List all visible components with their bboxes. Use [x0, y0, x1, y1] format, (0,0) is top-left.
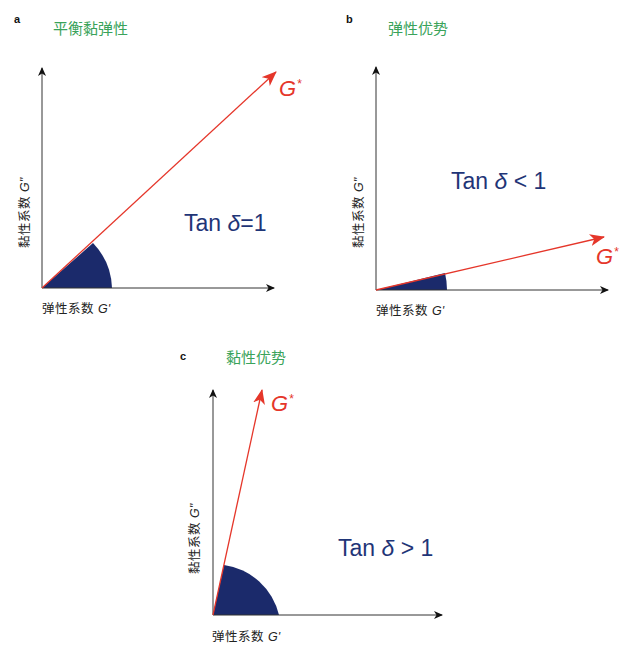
- tan-relation: > 1: [394, 535, 433, 561]
- delta-symbol: δ: [494, 168, 507, 194]
- x-axis-label-c: 弹性系数 G': [212, 626, 280, 645]
- complex-modulus-vector-b: [376, 237, 604, 290]
- vector-label-a: G*: [279, 76, 302, 102]
- tan-word: Tan: [338, 535, 375, 561]
- complex-modulus-vector-a: [42, 72, 276, 288]
- x-axis-symbol: G': [432, 304, 444, 318]
- delta-symbol: δ: [227, 210, 240, 236]
- vector-symbol: G: [279, 76, 296, 101]
- y-axis-label-b: 黏性系数 G'': [348, 178, 367, 248]
- panel-c-plot: [213, 390, 442, 615]
- y-axis-symbol: G'': [188, 504, 202, 519]
- vector-superscript: *: [297, 77, 302, 91]
- panel-b-title: 弹性优势: [388, 17, 448, 38]
- y-axis-symbol: G'': [18, 178, 32, 193]
- tan-delta-c: Tan δ > 1: [338, 535, 433, 562]
- tan-delta-b: Tan δ < 1: [451, 168, 546, 195]
- y-axis-symbol: G'': [352, 178, 366, 193]
- tan-delta-a: Tan δ=1: [184, 210, 267, 237]
- x-axis-text: 弹性系数: [212, 629, 264, 644]
- x-axis-symbol: G': [98, 302, 110, 316]
- vector-symbol: G: [271, 391, 288, 416]
- x-axis-label-b: 弹性系数 G': [376, 300, 444, 319]
- panel-c-letter: c: [180, 350, 186, 362]
- y-axis-text: 黏性系数: [17, 196, 32, 248]
- x-axis-label-a: 弹性系数 G': [42, 298, 110, 317]
- panel-a-plot: [42, 68, 276, 288]
- vector-superscript: *: [289, 392, 294, 406]
- x-axis-symbol: G': [268, 630, 280, 644]
- panel-a-letter: a: [14, 13, 20, 25]
- delta-symbol: δ: [381, 535, 394, 561]
- y-axis-text: 黏性系数: [351, 196, 366, 248]
- vector-superscript: *: [614, 245, 619, 259]
- tan-relation: =1: [240, 210, 266, 236]
- y-axis-label-c: 黏性系数 G'': [184, 504, 203, 574]
- x-axis-text: 弹性系数: [376, 303, 428, 318]
- tan-word: Tan: [184, 210, 221, 236]
- vector-symbol: G: [596, 244, 613, 269]
- diagram-canvas: [0, 0, 638, 656]
- x-axis-text: 弹性系数: [42, 301, 94, 316]
- panel-a-title: 平衡黏弹性: [53, 17, 128, 38]
- panel-b-letter: b: [346, 13, 353, 25]
- vector-label-b: G*: [596, 244, 619, 270]
- y-axis-label-a: 黏性系数 G'': [14, 178, 33, 248]
- tan-relation: < 1: [507, 168, 546, 194]
- vector-label-c: G*: [271, 391, 294, 417]
- phase-angle-wedge-a: [42, 243, 112, 288]
- tan-word: Tan: [451, 168, 488, 194]
- panel-c-title: 黏性优势: [226, 346, 286, 367]
- y-axis-text: 黏性系数: [187, 522, 202, 574]
